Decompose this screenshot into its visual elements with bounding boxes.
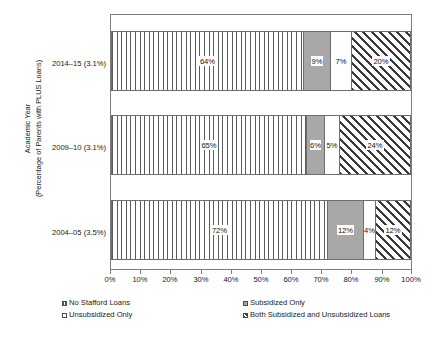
legend-item-unsubsidized-only[interactable]: Unsubsidized Only xyxy=(62,310,132,320)
x-axis-tick-90 xyxy=(382,270,383,274)
bar-segment-unsubsidized-only-2009-10[interactable]: 5% xyxy=(324,115,339,175)
bar-segment-label: 24% xyxy=(366,140,383,150)
x-axis-tick-label-50: 50% xyxy=(253,275,268,284)
bar-segment-label: 4% xyxy=(364,225,375,235)
x-axis-tick-label-80: 80% xyxy=(343,275,358,284)
x-axis-tick-20 xyxy=(170,270,171,274)
y-axis-tick-label-1: 2009–10 (3.1%) xyxy=(22,143,106,152)
bar-segment-label: 20% xyxy=(372,56,389,66)
bar-segment-label: 65% xyxy=(200,140,217,150)
bar-segment-unsubsidized-only-2014-15[interactable]: 7% xyxy=(330,31,351,91)
bar-segment-both-subsidized-and-unsubsidized-2009-10[interactable]: 24% xyxy=(339,115,411,175)
bar-segment-label: 64% xyxy=(199,56,216,66)
bar-segment-label: 9% xyxy=(311,56,324,66)
bar-segment-no-stafford-loans-2009-10[interactable]: 65% xyxy=(111,115,306,175)
x-axis-tick-50 xyxy=(261,270,262,274)
bar-segment-label: 12% xyxy=(337,225,354,235)
legend-item-no-stafford-loans[interactable]: No Stafford Loans xyxy=(62,298,130,308)
x-axis-tick-60 xyxy=(291,270,292,274)
x-axis-tick-label-40: 40% xyxy=(223,275,238,284)
vertical-stripes-swatch-icon xyxy=(62,301,67,306)
bar-segment-label: 12% xyxy=(384,225,401,235)
x-axis-tick-label-90: 90% xyxy=(374,275,389,284)
x-axis-tick-80 xyxy=(351,270,352,274)
x-axis-tick-label-0: 0% xyxy=(105,275,116,284)
bar-segment-label: 5% xyxy=(327,140,338,150)
bar-segment-both-subsidized-and-unsubsidized-2014-15[interactable]: 20% xyxy=(351,31,411,91)
legend: No Stafford Loans Unsubsidized Only Subs… xyxy=(62,298,432,328)
white-swatch-icon xyxy=(62,313,67,318)
bar-segment-both-subsidized-and-unsubsidized-2004-05[interactable]: 12% xyxy=(375,200,411,260)
legend-item-both-subsidized-and-unsubsidized[interactable]: Both Subsidized and Unsubsidized Loans xyxy=(243,310,390,320)
x-axis-tick-70 xyxy=(321,270,322,274)
bar-row-2014-15: 64% 9% 7% 20% xyxy=(111,31,411,91)
solid-gray-swatch-icon xyxy=(243,301,248,306)
bar-segment-subsidized-only-2014-15[interactable]: 9% xyxy=(303,31,330,91)
stacked-bar-chart-figure: Academic Year (Percentage of Parents wit… xyxy=(0,0,437,337)
bar-segment-unsubsidized-only-2004-05[interactable]: 4% xyxy=(363,200,375,260)
x-axis-tick-40 xyxy=(231,270,232,274)
x-axis-tick-30 xyxy=(201,270,202,274)
y-axis-tick-label-0: 2014–15 (3.1%) xyxy=(22,59,106,68)
legend-item-label: No Stafford Loans xyxy=(69,298,130,308)
legend-item-subsidized-only[interactable]: Subsidized Only xyxy=(243,298,305,308)
bar-segment-no-stafford-loans-2014-15[interactable]: 64% xyxy=(111,31,303,91)
x-axis-tick-label-70: 70% xyxy=(313,275,328,284)
bar-segment-subsidized-only-2009-10[interactable]: 6% xyxy=(306,115,324,175)
x-axis-tick-100 xyxy=(411,270,412,274)
bar-row-2009-10: 65% 6% 5% 24% xyxy=(111,115,411,175)
bar-segment-label: 7% xyxy=(335,56,348,66)
legend-item-label: Both Subsidized and Unsubsidized Loans xyxy=(250,310,390,320)
legend-item-label: Subsidized Only xyxy=(250,298,305,308)
plot-area: 64% 9% 7% 20% 65% 6% 5% 24% xyxy=(110,14,412,270)
x-axis-tick-label-100: 100% xyxy=(401,275,420,284)
bar-segment-subsidized-only-2004-05[interactable]: 12% xyxy=(327,200,363,260)
diagonal-hatch-swatch-icon xyxy=(243,313,248,318)
bar-row-2004-05: 72% 12% 4% 12% xyxy=(111,200,411,260)
x-axis-tick-label-20: 20% xyxy=(162,275,177,284)
x-axis-tick-0 xyxy=(110,270,111,274)
legend-item-label: Unsubsidized Only xyxy=(69,310,132,320)
bar-segment-no-stafford-loans-2004-05[interactable]: 72% xyxy=(111,200,327,260)
y-axis-tick-label-2: 2004–05 (3.5%) xyxy=(22,228,106,237)
x-axis-tick-label-10: 10% xyxy=(132,275,147,284)
bar-segment-label: 6% xyxy=(310,140,321,150)
bar-segment-label: 72% xyxy=(211,225,228,235)
x-axis: 0% 10% 20% 30% 40% 50% 60% 70% 80% 90% 1… xyxy=(110,270,412,294)
y-axis-tick-labels: 2014–15 (3.1%) 2009–10 (3.1%) 2004–05 (3… xyxy=(20,0,106,337)
x-axis-tick-label-30: 30% xyxy=(193,275,208,284)
x-axis-tick-label-60: 60% xyxy=(283,275,298,284)
x-axis-tick-10 xyxy=(140,270,141,274)
